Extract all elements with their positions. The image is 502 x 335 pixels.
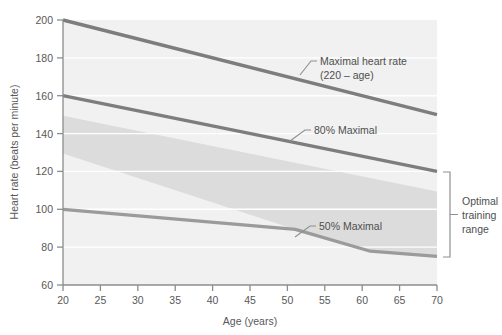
x-tick-label-45: 45 (244, 294, 256, 306)
x-tick-label-35: 35 (169, 294, 181, 306)
y-axis-ticks (57, 20, 63, 285)
bracket-label-line1: Optimal (462, 195, 498, 207)
y-tick-label-200: 200 (35, 14, 53, 26)
y-axis-tick-labels: 200 180 160 140 120 100 80 60 (35, 14, 53, 291)
y-tick-label-160: 160 (35, 90, 53, 102)
x-tick-label-50: 50 (282, 294, 294, 306)
annotation-maximal-line2: (220 – age) (320, 69, 374, 81)
optimal-training-range-bracket (443, 172, 458, 257)
bracket-label-line3: range (462, 223, 489, 235)
y-axis-title: Heart rate (beats per minute) (8, 85, 20, 220)
x-axis-ticks (63, 285, 437, 291)
x-tick-label-65: 65 (394, 294, 406, 306)
y-tick-label-180: 180 (35, 52, 53, 64)
x-axis-tick-labels: 20 25 30 35 40 45 50 55 60 65 70 (57, 294, 443, 306)
annotation-fifty-line1: 50% Maximal (319, 220, 382, 232)
y-tick-label-100: 100 (35, 203, 53, 215)
bracket-label-line2: training (462, 209, 497, 221)
x-tick-label-30: 30 (132, 294, 144, 306)
x-tick-label-60: 60 (356, 294, 368, 306)
x-tick-label-25: 25 (95, 294, 107, 306)
annotation-eighty-line1: 80% Maximal (314, 124, 377, 136)
y-tick-label-140: 140 (35, 128, 53, 140)
chart-container: 200 180 160 140 120 100 80 60 20 25 30 3… (0, 0, 502, 335)
annotation-maximal-line1: Maximal heart rate (320, 55, 407, 67)
x-tick-label-20: 20 (57, 294, 69, 306)
x-axis-title: Age (years) (223, 315, 277, 327)
x-tick-label-70: 70 (431, 294, 443, 306)
y-tick-label-60: 60 (41, 279, 53, 291)
x-tick-label-40: 40 (207, 294, 219, 306)
x-tick-label-55: 55 (319, 294, 331, 306)
y-tick-label-120: 120 (35, 165, 53, 177)
y-tick-label-80: 80 (41, 241, 53, 253)
